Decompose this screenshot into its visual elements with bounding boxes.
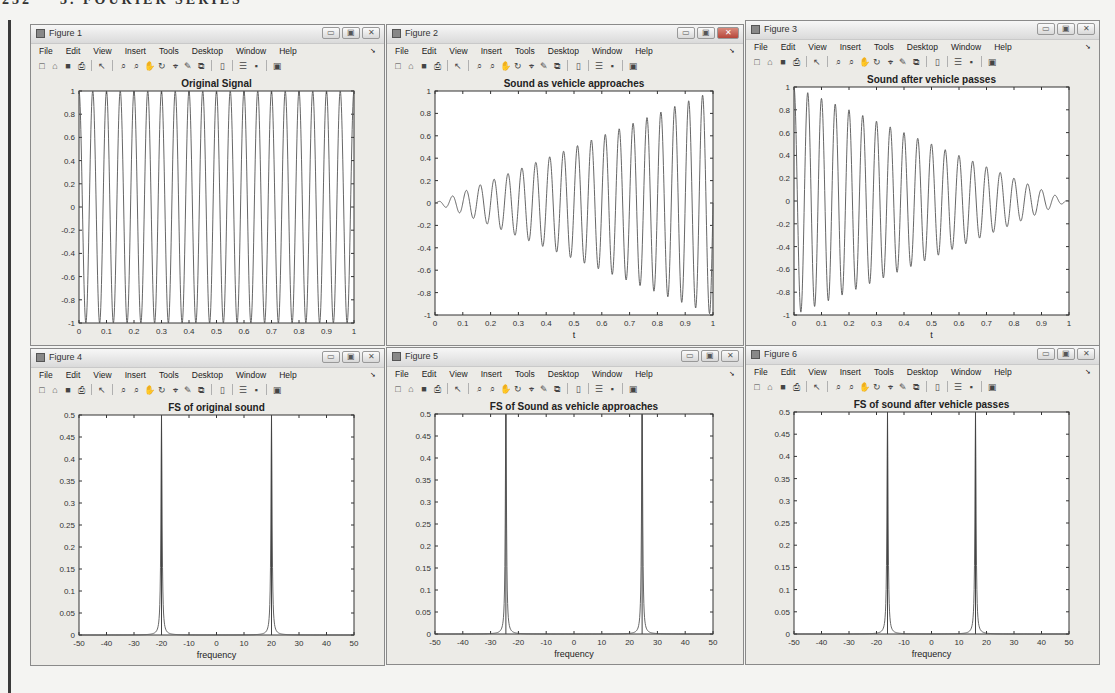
rotate-3d-icon[interactable]: ↻ — [513, 61, 523, 71]
zoom-in-icon[interactable]: ⌕ — [474, 61, 484, 71]
print-icon[interactable]: ⎙ — [432, 61, 442, 71]
menu-file[interactable]: File — [395, 46, 409, 56]
new-figure-icon[interactable]: □ — [752, 382, 762, 392]
colorbar-icon[interactable]: ▯ — [217, 385, 227, 395]
pan-icon[interactable]: ✋ — [144, 385, 154, 395]
figure-window-4[interactable]: Figure 4▭▣✕FileEditViewInsertToolsDeskto… — [30, 348, 385, 666]
legend-icon[interactable]: ☰ — [953, 57, 963, 67]
pan-icon[interactable]: ✋ — [500, 61, 510, 71]
data-cursor-icon[interactable]: ⌖ — [526, 384, 536, 394]
minimize-button[interactable]: ▭ — [681, 350, 699, 362]
close-button[interactable]: ✕ — [721, 350, 739, 362]
pan-icon[interactable]: ✋ — [859, 382, 869, 392]
menu-edit[interactable]: Edit — [66, 370, 81, 380]
show-plot-tools-icon[interactable]: ▣ — [272, 385, 282, 395]
window-titlebar[interactable]: Figure 2▭▣✕ — [387, 25, 743, 44]
menu-tools[interactable]: Tools — [159, 370, 179, 380]
menu-insert[interactable]: Insert — [125, 370, 146, 380]
data-cursor-icon[interactable]: ⌖ — [885, 382, 895, 392]
zoom-in-icon[interactable]: ⌕ — [833, 382, 843, 392]
hide-plot-tools-icon[interactable]: ▪ — [251, 385, 261, 395]
menu-insert[interactable]: Insert — [481, 369, 502, 379]
menu-help[interactable]: Help — [635, 46, 652, 56]
show-plot-tools-icon[interactable]: ▣ — [272, 61, 282, 71]
rotate-3d-icon[interactable]: ↻ — [157, 385, 167, 395]
figure-window-2[interactable]: Figure 2▭▣✕FileEditViewInsertToolsDeskto… — [386, 24, 744, 346]
show-plot-tools-icon[interactable]: ▣ — [987, 57, 997, 67]
hide-plot-tools-icon[interactable]: ▪ — [607, 384, 617, 394]
hide-plot-tools-icon[interactable]: ▪ — [251, 61, 261, 71]
brush-icon[interactable]: ✎ — [183, 385, 193, 395]
zoom-out-icon[interactable]: ⌕ — [487, 61, 497, 71]
pan-icon[interactable]: ✋ — [144, 61, 154, 71]
menu-view[interactable]: View — [808, 42, 826, 52]
data-cursor-icon[interactable]: ⌖ — [526, 61, 536, 71]
data-cursor-icon[interactable]: ⌖ — [170, 61, 180, 71]
close-button[interactable]: ✕ — [1077, 348, 1095, 360]
link-plot-icon[interactable]: ⧉ — [196, 61, 206, 71]
legend-icon[interactable]: ☰ — [594, 61, 604, 71]
menu-window[interactable]: Window — [951, 367, 981, 377]
menu-window[interactable]: Window — [592, 46, 622, 56]
brush-icon[interactable]: ✎ — [539, 384, 549, 394]
link-plot-icon[interactable]: ⧉ — [552, 384, 562, 394]
minimize-button[interactable]: ▭ — [322, 27, 340, 39]
print-icon[interactable]: ⎙ — [76, 385, 86, 395]
colorbar-icon[interactable]: ▯ — [932, 57, 942, 67]
open-file-icon[interactable]: ⌂ — [406, 384, 416, 394]
rotate-3d-icon[interactable]: ↻ — [513, 384, 523, 394]
print-icon[interactable]: ⎙ — [791, 57, 801, 67]
minimize-button[interactable]: ▭ — [1037, 23, 1055, 35]
maximize-button[interactable]: ▣ — [701, 350, 719, 362]
menu-tools[interactable]: Tools — [159, 46, 179, 56]
menu-tools[interactable]: Tools — [874, 42, 894, 52]
maximize-button[interactable]: ▣ — [697, 27, 715, 39]
menu-view[interactable]: View — [449, 369, 467, 379]
menu-file[interactable]: File — [754, 42, 768, 52]
window-titlebar[interactable]: Figure 5▭▣✕ — [387, 348, 743, 367]
data-cursor-icon[interactable]: ⌖ — [885, 57, 895, 67]
zoom-in-icon[interactable]: ⌕ — [474, 384, 484, 394]
legend-icon[interactable]: ☰ — [594, 384, 604, 394]
data-cursor-icon[interactable]: ⌖ — [170, 385, 180, 395]
menu-desktop[interactable]: Desktop — [192, 370, 223, 380]
save-icon[interactable]: ■ — [419, 384, 429, 394]
save-icon[interactable]: ■ — [778, 57, 788, 67]
menu-tools[interactable]: Tools — [874, 367, 894, 377]
menu-view[interactable]: View — [449, 46, 467, 56]
dock-arrow-icon[interactable]: ➘ — [729, 370, 735, 378]
menu-tools[interactable]: Tools — [515, 46, 535, 56]
new-figure-icon[interactable]: □ — [393, 384, 403, 394]
menu-window[interactable]: Window — [236, 46, 266, 56]
menu-file[interactable]: File — [39, 46, 53, 56]
maximize-button[interactable]: ▣ — [1057, 23, 1075, 35]
edit-plot-icon[interactable]: ↖ — [812, 57, 822, 67]
dock-arrow-icon[interactable]: ➘ — [729, 47, 735, 55]
menu-help[interactable]: Help — [279, 46, 296, 56]
close-button[interactable]: ✕ — [717, 27, 739, 39]
maximize-button[interactable]: ▣ — [342, 351, 360, 363]
edit-plot-icon[interactable]: ↖ — [812, 382, 822, 392]
menu-insert[interactable]: Insert — [840, 42, 861, 52]
menu-insert[interactable]: Insert — [840, 367, 861, 377]
close-button[interactable]: ✕ — [362, 351, 380, 363]
window-titlebar[interactable]: Figure 6▭▣✕ — [746, 346, 1099, 365]
menu-file[interactable]: File — [754, 367, 768, 377]
zoom-out-icon[interactable]: ⌕ — [846, 382, 856, 392]
print-icon[interactable]: ⎙ — [76, 61, 86, 71]
maximize-button[interactable]: ▣ — [1057, 348, 1075, 360]
menu-desktop[interactable]: Desktop — [192, 46, 223, 56]
menu-view[interactable]: View — [93, 370, 111, 380]
pan-icon[interactable]: ✋ — [500, 384, 510, 394]
menu-insert[interactable]: Insert — [125, 46, 146, 56]
menu-help[interactable]: Help — [635, 369, 652, 379]
rotate-3d-icon[interactable]: ↻ — [872, 57, 882, 67]
legend-icon[interactable]: ☰ — [238, 61, 248, 71]
edit-plot-icon[interactable]: ↖ — [97, 385, 107, 395]
open-file-icon[interactable]: ⌂ — [765, 57, 775, 67]
rotate-3d-icon[interactable]: ↻ — [157, 61, 167, 71]
link-plot-icon[interactable]: ⧉ — [196, 385, 206, 395]
menu-file[interactable]: File — [39, 370, 53, 380]
print-icon[interactable]: ⎙ — [432, 384, 442, 394]
menu-edit[interactable]: Edit — [422, 369, 437, 379]
